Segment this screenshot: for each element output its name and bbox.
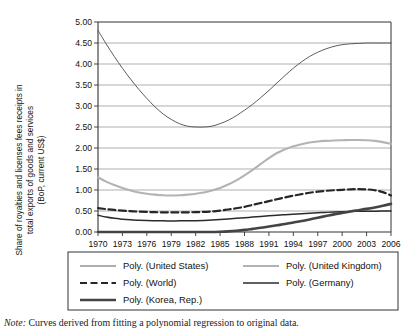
y-tick-label: 1.50 <box>75 164 92 174</box>
x-tick-label: 1997 <box>308 239 327 249</box>
x-tick-label: 1970 <box>88 239 107 249</box>
series-line-united_states <box>98 30 391 127</box>
y-tick-label: 4.00 <box>75 59 92 69</box>
legend-label-united_states: Poly. (United States) <box>123 260 208 271</box>
y-tick-label: 3.00 <box>75 101 92 111</box>
x-tick-label: 1979 <box>162 239 181 249</box>
y-tick-label: 4.50 <box>75 38 92 48</box>
x-tick-label: 1973 <box>113 239 132 249</box>
note-lead: Note: <box>4 317 26 328</box>
legend-label-korea_rep: Poly. (Korea, Rep.) <box>123 294 202 305</box>
x-tick-label: 1976 <box>137 239 156 249</box>
x-tick-label: 2006 <box>381 239 400 249</box>
y-tick-label: 0.00 <box>75 227 92 237</box>
x-tick-label: 2000 <box>333 239 352 249</box>
y-tick-label: 5.00 <box>75 17 92 27</box>
y-axis-label-line2: total exports of goods and services <box>25 106 35 234</box>
chart-figure: Share of royalties and licenses fees rec… <box>0 0 408 335</box>
legend-label-germany: Poly. (Germany) <box>286 277 354 288</box>
legend-label-world: Poly. (World) <box>123 277 176 288</box>
legend-label-united_kingdom: Poly. (United Kingdom) <box>286 260 382 271</box>
x-tick-label: 1991 <box>259 239 278 249</box>
y-tick-label: 2.50 <box>75 122 92 132</box>
note-text: Curves derived from fitting a polynomial… <box>26 317 299 328</box>
y-tick-label: 2.00 <box>75 143 92 153</box>
y-tick-labels: 0.000.501.001.502.002.503.003.504.004.50… <box>75 17 92 237</box>
y-axis-label-line3: (BoP, current US$) <box>36 135 46 204</box>
x-tick-label: 1994 <box>284 239 303 249</box>
y-axis-label-line1: Share of royalties and licenses fees rec… <box>14 84 24 255</box>
chart-canvas: Share of royalties and licenses fees rec… <box>0 0 408 335</box>
series-lines <box>98 30 391 232</box>
y-tick-label: 3.50 <box>75 80 92 90</box>
y-axis-label: Share of royalties and licenses fees rec… <box>14 84 46 255</box>
x-tick-label: 1988 <box>235 239 254 249</box>
x-tick-label: 1982 <box>186 239 205 249</box>
gridlines <box>94 22 391 232</box>
x-tick-labels: 1970197319761979198219851988199119941997… <box>88 239 400 249</box>
x-tick-label: 1985 <box>211 239 230 249</box>
y-tick-label: 0.50 <box>75 206 92 216</box>
x-tick-label: 2003 <box>357 239 376 249</box>
figure-note: Note: Curves derived from fitting a poly… <box>4 317 404 328</box>
legend: Poly. (United States)Poly. (United Kingd… <box>68 252 398 310</box>
y-tick-label: 1.00 <box>75 185 92 195</box>
